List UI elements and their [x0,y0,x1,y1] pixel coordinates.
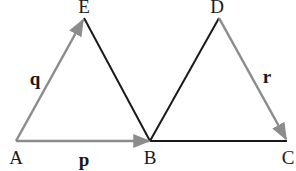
vector-diagram: E D A B C q p r [0,0,296,171]
label-E: E [78,0,90,17]
vector-q-arrow [16,20,83,141]
vector-r-arrow [219,18,286,139]
segment-BD [150,18,219,141]
label-B: B [144,147,157,168]
label-A: A [9,147,23,168]
label-vector-r: r [263,66,272,87]
label-vector-p: p [79,149,90,170]
label-vector-q: q [30,68,41,89]
label-D: D [210,0,224,17]
label-C: C [282,147,295,168]
segment-EB [84,18,150,141]
